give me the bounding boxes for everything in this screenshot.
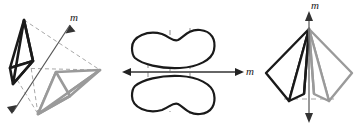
panel-left: m xyxy=(0,0,118,128)
symmetry-figure: m m xyxy=(0,0,359,128)
mirror-line-arrow xyxy=(122,68,244,76)
panel-middle-graphic xyxy=(118,0,258,128)
blob-lower xyxy=(132,76,214,114)
panel-middle: m xyxy=(118,0,258,128)
panel-right-graphic xyxy=(258,0,359,128)
tetrahedron-light xyxy=(38,70,100,114)
axis-label-m-right: m xyxy=(311,0,319,11)
pyramid-light xyxy=(309,29,352,101)
blob-upper xyxy=(132,30,214,68)
axis-label-m-middle: m xyxy=(246,66,254,77)
axis-label-m-left: m xyxy=(70,12,78,23)
tetrahedron-dark xyxy=(10,20,33,84)
panel-left-graphic xyxy=(0,0,118,128)
pyramid-dark xyxy=(266,29,309,101)
panel-right: m xyxy=(258,0,359,128)
